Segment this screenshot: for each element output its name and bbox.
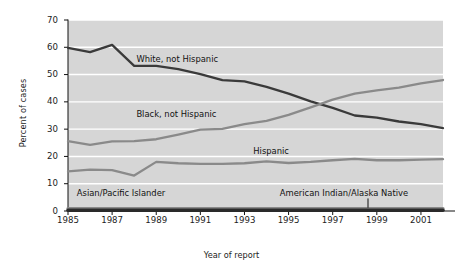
series-label-black-not-hispanic: Black, not Hispanic [136,110,216,118]
y-axis-tick-label: 50 [34,70,58,79]
x-axis-tick-label: 1991 [180,216,220,225]
series-label-hispanic: Hispanic [253,147,289,155]
y-axis-title: Percent of cases [18,43,28,183]
x-axis-tick-label: 2001 [401,216,441,225]
x-axis-tick-label: 1999 [357,216,397,225]
y-axis-tick-label: 60 [34,43,58,52]
y-axis-tick-label: 10 [34,179,58,188]
y-axis-tick-label: 70 [34,16,58,25]
series-label-american-indian-alaska-native: American Indian/Alaska Native [280,189,408,197]
x-axis-tick-label: 1995 [269,216,309,225]
x-axis-tick-labels: 198519871989199119931995199719992001 [0,216,463,232]
y-axis-tick-label: 30 [34,125,58,134]
series-label-white-not-hispanic: White, not Hispanic [136,55,218,63]
y-axis-tick-labels: 010203040506070 [34,0,58,276]
series-label-asian-pacific-islander: Asian/Pacific Islander [77,189,165,197]
y-axis-tick-label: 40 [34,97,58,106]
y-axis-tick-label: 0 [34,207,58,216]
line-chart-plot [0,0,463,276]
chart-figure: 010203040506070 198519871989199119931995… [0,0,463,276]
x-axis-tick-label: 1985 [48,216,88,225]
x-axis-tick-label: 1993 [224,216,264,225]
x-axis-title: Year of report [0,250,463,260]
plot-background [68,20,443,211]
y-axis-tick-label: 20 [34,152,58,161]
x-axis-tick-label: 1989 [136,216,176,225]
x-axis-tick-label: 1987 [92,216,132,225]
x-axis-tick-label: 1997 [313,216,353,225]
